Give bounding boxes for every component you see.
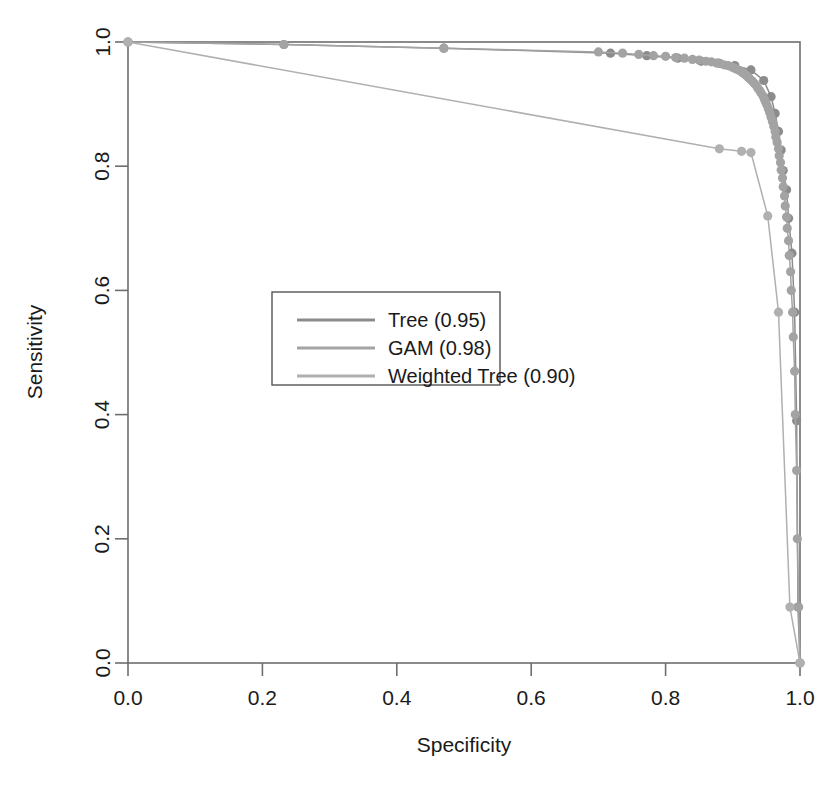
roc-data-point xyxy=(634,50,643,59)
y-axis-title: Sensitivity xyxy=(23,304,46,399)
roc-data-point xyxy=(794,603,803,612)
roc-data-point xyxy=(777,165,786,174)
roc-data-point xyxy=(790,367,799,376)
roc-data-point xyxy=(778,173,787,182)
roc-data-point xyxy=(671,53,680,62)
roc-data-point xyxy=(649,51,658,60)
roc-data-point xyxy=(783,224,792,233)
x-tick-label: 1.0 xyxy=(785,686,814,709)
legend-items: Tree (0.95)GAM (0.98)Weighted Tree (0.90… xyxy=(297,309,576,387)
x-tick-label: 0.8 xyxy=(651,686,680,709)
roc-chart-svg: 0.00.20.40.60.81.0 0.00.20.40.60.81.0 Sp… xyxy=(0,0,832,786)
y-axis-tick-labels: 0.00.20.40.60.81.0 xyxy=(91,27,114,677)
roc-data-point xyxy=(795,658,804,667)
roc-data-point xyxy=(618,49,627,58)
y-tick-label: 0.6 xyxy=(91,276,114,305)
roc-data-point xyxy=(782,213,791,222)
x-tick-label: 0.2 xyxy=(248,686,277,709)
y-tick-label: 0.4 xyxy=(91,400,114,430)
roc-data-point xyxy=(779,182,788,191)
y-tick-label: 0.2 xyxy=(91,524,114,553)
y-tick-label: 1.0 xyxy=(91,27,114,56)
legend-label-3: Weighted Tree (0.90) xyxy=(388,365,576,387)
roc-data-point xyxy=(594,47,603,56)
roc-data-point xyxy=(746,148,755,157)
roc-data-point xyxy=(715,144,724,153)
roc-plot-container: 0.00.20.40.60.81.0 0.00.20.40.60.81.0 Sp… xyxy=(0,0,832,786)
legend-label-2: GAM (0.98) xyxy=(388,337,491,359)
roc-data-point xyxy=(787,286,796,295)
x-axis-tick-labels: 0.00.20.40.60.81.0 xyxy=(113,686,814,709)
x-tick-label: 0.6 xyxy=(517,686,546,709)
roc-data-point xyxy=(780,191,789,200)
roc-data-point xyxy=(737,147,746,156)
roc-data-point xyxy=(788,308,797,317)
y-tick-label: 0.8 xyxy=(91,152,114,181)
x-tick-label: 0.4 xyxy=(382,686,412,709)
roc-data-point xyxy=(793,534,802,543)
legend-label-1: Tree (0.95) xyxy=(388,309,486,331)
roc-data-point xyxy=(763,211,772,220)
roc-data-point xyxy=(786,267,795,276)
chart-legend: Tree (0.95)GAM (0.98)Weighted Tree (0.90… xyxy=(272,292,576,387)
y-axis-ticks xyxy=(115,42,128,663)
x-axis-ticks xyxy=(128,663,800,676)
roc-data-point xyxy=(784,236,793,245)
y-tick-label: 0.0 xyxy=(91,648,114,677)
roc-data-point xyxy=(774,308,783,317)
roc-data-point xyxy=(792,466,801,475)
roc-data-point xyxy=(680,54,689,63)
roc-data-point xyxy=(439,44,448,53)
roc-data-point xyxy=(791,410,800,419)
roc-data-point xyxy=(781,201,790,210)
roc-data-point xyxy=(123,37,132,46)
roc-data-point xyxy=(785,603,794,612)
roc-data-point xyxy=(279,40,288,49)
roc-data-point xyxy=(785,251,794,260)
x-axis-title: Specificity xyxy=(417,733,512,756)
roc-data-point xyxy=(661,52,670,61)
roc-data-point xyxy=(789,332,798,341)
x-tick-label: 0.0 xyxy=(113,686,142,709)
